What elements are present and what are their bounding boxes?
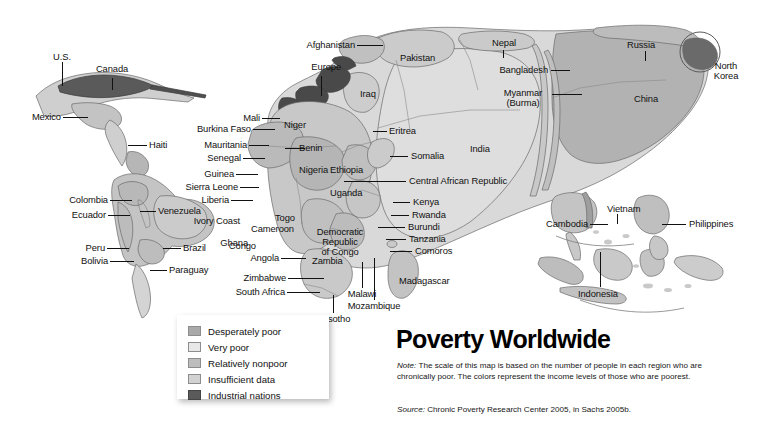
label-indonesia: Indonesia [578, 289, 618, 299]
leader-peru [107, 248, 129, 249]
label-south-africa: South Africa [218, 287, 285, 297]
leader-burkina [253, 129, 275, 130]
leader-vietnam [617, 214, 618, 224]
leader-burundi [378, 227, 405, 228]
label-zimbabwe: Zimbabwe [228, 273, 286, 283]
label-rwanda: Rwanda [412, 210, 446, 220]
label-comoros: Comoros [415, 246, 452, 256]
leader-mauritania [249, 145, 269, 146]
map-legend: Desperately poor Very poor Relatively no… [177, 315, 329, 399]
label-bolivia: Bolivia [66, 256, 108, 266]
leader-mali [262, 118, 280, 119]
label-kenya: Kenya [413, 197, 439, 207]
leader-europe [321, 76, 322, 96]
leader-philippines [662, 224, 686, 225]
leader-comoros [390, 251, 412, 252]
leader-afghanistan [357, 45, 383, 46]
label-congo: Congo [216, 241, 256, 251]
label-malawi: Malawi [338, 289, 386, 299]
leader-colombia [110, 200, 132, 201]
label-nepal: Nepal [484, 38, 524, 48]
leader-tanzania [386, 239, 406, 240]
label-somalia: Somalia [411, 151, 444, 161]
figure-source: Source: Chronic Poverty Research Center … [397, 404, 737, 415]
leader-us [62, 62, 63, 86]
label-peru: Peru [76, 243, 105, 253]
label-sierra-leone: Sierra Leone [176, 182, 238, 192]
leader-zimbabwe [288, 278, 324, 279]
label-senegal: Senegal [196, 153, 241, 163]
label-car: Central African Republic [409, 176, 507, 186]
leader-kenya [393, 202, 410, 203]
legend-item-insufficient-data: Insufficient data [188, 371, 287, 387]
leader-canada [112, 78, 113, 90]
label-haiti: Haiti [149, 140, 167, 150]
label-mexico: Mexico [13, 112, 61, 122]
source-label: Source: [397, 405, 425, 414]
label-russia: Russia [627, 40, 655, 50]
leader-paraguay [150, 270, 167, 271]
label-pakistan: Pakistan [400, 53, 435, 63]
leader-bolivia [110, 261, 134, 262]
label-guinea: Guinea [191, 169, 234, 179]
note-label: Note: [397, 361, 416, 370]
label-ecuador: Ecuador [56, 210, 106, 220]
leader-liberia [231, 200, 253, 201]
label-philippines: Philippines [689, 219, 733, 229]
label-liberia: Liberia [190, 195, 229, 205]
leader-rwanda [391, 215, 409, 216]
legend-label-insufficient-data: Insufficient data [208, 374, 275, 385]
leader-venezuela [140, 211, 156, 212]
leader-brazil [163, 248, 181, 249]
label-iraq: Iraq [360, 89, 376, 99]
label-colombia: Colombia [54, 195, 108, 205]
leader-somalia [390, 156, 408, 157]
figure-note: Note: The scale of this map is based on … [397, 360, 727, 383]
legend-list: Desperately poor Very poor Relatively no… [188, 323, 287, 403]
label-zambia: Zambia [312, 256, 343, 266]
label-burundi: Burundi [408, 222, 440, 232]
label-europe: Europe [297, 62, 341, 72]
label-ethiopia: Ethiopia [330, 165, 363, 175]
legend-label-very-poor: Very poor [208, 342, 249, 353]
label-afghanistan: Afghanistan [297, 40, 355, 50]
leader-nepal [503, 50, 504, 58]
legend-label-relatively-nonpoor: Relatively nonpoor [208, 358, 287, 369]
label-togo: Togo [275, 213, 295, 223]
legend-item-relatively-nonpoor: Relatively nonpoor [188, 355, 287, 371]
leader-bangladesh [551, 70, 570, 71]
leader-sierraleone [240, 187, 259, 188]
leader-cambodia [590, 224, 608, 225]
legend-swatch-desperately-poor [188, 326, 201, 336]
leader-haiti [128, 145, 147, 146]
label-us: U.S. [45, 52, 79, 62]
poverty-cartogram-figure: U.S. Canada Mexico Haiti Colombia Venezu… [0, 0, 761, 429]
legend-swatch-insufficient-data [188, 374, 201, 384]
legend-swatch-very-poor [188, 342, 201, 352]
label-uganda: Uganda [330, 188, 362, 198]
label-nigeria: Nigeria [299, 165, 328, 175]
label-mozambique: Mozambique [339, 301, 409, 311]
legend-item-industrial-nations: Industrial nations [188, 387, 287, 403]
label-tanzania: Tanzania [409, 234, 446, 244]
leader-mexico [63, 117, 88, 118]
label-brazil: Brazil [183, 243, 206, 253]
leader-malawi [362, 262, 363, 288]
label-north-korea: North Korea [704, 61, 748, 81]
label-india: India [470, 144, 490, 154]
leader-myanmar [552, 94, 582, 95]
leader-ecuador [108, 215, 130, 216]
legend-item-very-poor: Very poor [188, 339, 287, 355]
leader-southafrica [287, 292, 320, 293]
legend-item-desperately-poor: Desperately poor [188, 323, 287, 339]
leader-eritrea [373, 131, 387, 132]
label-ivory-coast: Ivory Coast [182, 216, 240, 226]
label-drc: Democratic Republic of Congo [309, 227, 371, 257]
leader-guinea [236, 174, 258, 175]
leader-indonesia [600, 252, 601, 287]
label-myanmar: Myanmar (Burma) [495, 88, 551, 108]
leader-russia [645, 51, 646, 61]
legend-label-desperately-poor: Desperately poor [208, 326, 281, 337]
label-angola: Angola [233, 253, 279, 263]
label-cambodia: Cambodia [534, 219, 588, 229]
